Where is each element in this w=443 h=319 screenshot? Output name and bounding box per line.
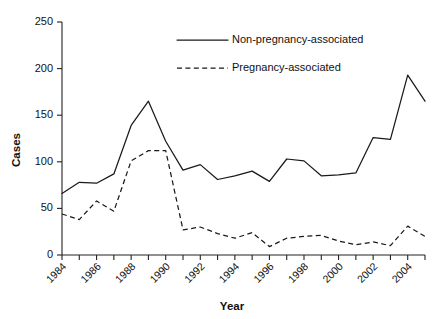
x-tick-label-group: 1984198619881990199219941996199820002002… [43,260,414,285]
x-tick-label: 1990 [147,260,172,285]
y-tick-label-group: 050100150200250 [35,15,53,260]
x-tick-label: 2000 [320,260,345,285]
x-tick-label: 1996 [251,260,276,285]
y-axis-ticks [57,22,62,255]
x-tick-label: 1988 [113,260,138,285]
x-tick-label: 2002 [355,260,380,285]
y-tick-label: 250 [35,15,53,27]
x-axis-title: Year [220,300,245,312]
x-tick-label: 1994 [216,260,241,285]
y-tick-label: 200 [35,62,53,74]
legend-label-0: Non-pregnancy-associated [232,33,363,45]
chart-legend: Non-pregnancy-associatedPregnancy-associ… [177,33,363,73]
x-tick-label: 2004 [389,260,414,285]
series-group [62,75,425,246]
x-tick-label: 1992 [182,260,207,285]
x-tick-label: 1998 [285,260,310,285]
legend-label-1: Pregnancy-associated [232,61,341,73]
y-tick-label: 0 [47,248,53,260]
series-line-non-pregnancy-associated [62,75,425,193]
y-tick-label: 100 [35,155,53,167]
x-tick-label: 1986 [78,260,103,285]
y-tick-label: 50 [41,201,53,213]
chart-container: 050100150200250 198419861988199019921994… [0,0,443,319]
y-tick-label: 150 [35,108,53,120]
y-axis-title: Cases [10,133,22,167]
x-axis-ticks [62,255,425,260]
line-chart: 050100150200250 198419861988199019921994… [0,0,443,319]
x-tick-label: 1984 [43,260,68,285]
